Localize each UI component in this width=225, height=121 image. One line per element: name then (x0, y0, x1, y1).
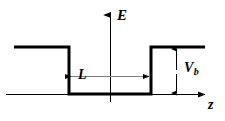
barrier-height-label: Vb (184, 61, 199, 77)
well-width-label: L (78, 68, 87, 82)
position-axis-label: z (208, 98, 213, 112)
potential-well-figure: E z L Vb (0, 0, 225, 121)
barrier-height-label-subscript: b (193, 66, 199, 77)
energy-axis-label: E (117, 8, 127, 23)
barrier-height-label-main: V (184, 60, 193, 75)
